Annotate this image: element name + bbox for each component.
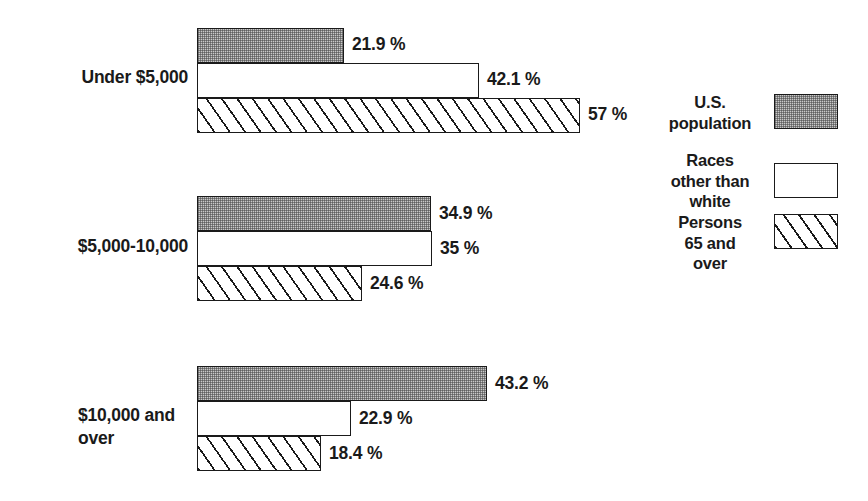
category-label-group-2: $5,000-10,000 bbox=[10, 235, 188, 258]
value-label-group-2-series-2: 35 % bbox=[440, 238, 479, 259]
bar-group-2-series-1 bbox=[197, 196, 431, 231]
category-label-group-3: $10,000 and over bbox=[78, 404, 198, 450]
legend-swatch-races-other-than-white bbox=[774, 163, 838, 198]
value-label-group-2-series-3: 24.6 % bbox=[370, 273, 423, 294]
bar-group-2-series-3 bbox=[197, 266, 362, 301]
value-label-group-3-series-3: 18.4 % bbox=[329, 443, 382, 464]
bar-group-3-series-1 bbox=[197, 366, 487, 401]
value-label-group-1-series-1: 21.9 % bbox=[352, 34, 405, 55]
legend-label-races-other-than-white: Races other than white bbox=[648, 150, 772, 212]
bar-group-3-series-2 bbox=[197, 401, 351, 436]
legend-swatch-us-population bbox=[774, 94, 838, 129]
legend-item-persons-65-and-over: Persons 65 and over bbox=[648, 212, 848, 274]
legend-label-persons-65-and-over: Persons 65 and over bbox=[648, 212, 772, 274]
bar-group-1-series-3 bbox=[197, 98, 580, 133]
grouped-bar-chart: Under $5,000 21.9 % 42.1 % 57 % $5,000-1… bbox=[0, 0, 868, 501]
legend-item-us-population: U.S. population bbox=[648, 92, 848, 150]
legend-swatch-persons-65-and-over bbox=[774, 214, 838, 249]
value-label-group-3-series-2: 22.9 % bbox=[359, 408, 412, 429]
category-label-group-1: Under $5,000 bbox=[10, 66, 188, 89]
value-label-group-1-series-3: 57 % bbox=[588, 104, 627, 125]
value-label-group-3-series-1: 43.2 % bbox=[495, 373, 548, 394]
value-label-group-1-series-2: 42.1 % bbox=[487, 69, 540, 90]
legend-item-races-other-than-white: Races other than white bbox=[648, 150, 848, 212]
bar-group-1-series-1 bbox=[197, 28, 344, 63]
bar-group-1-series-2 bbox=[197, 63, 479, 98]
value-label-group-2-series-1: 34.9 % bbox=[439, 203, 492, 224]
bar-group-3-series-3 bbox=[197, 436, 321, 471]
bar-group-2-series-2 bbox=[197, 231, 432, 266]
legend-label-us-population: U.S. population bbox=[648, 92, 772, 133]
